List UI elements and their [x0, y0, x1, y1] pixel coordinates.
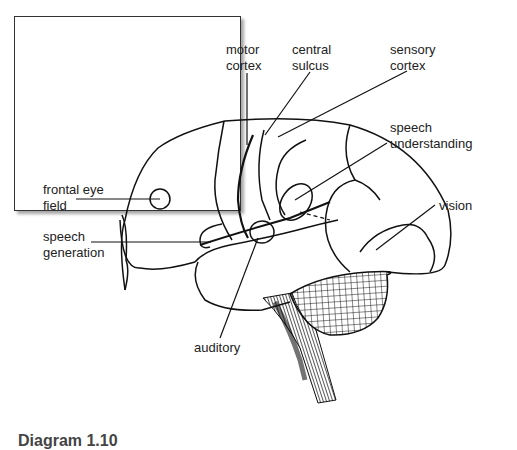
sensory-cortex-area [259, 130, 306, 220]
label-motor-cortex: motor cortex [226, 42, 261, 74]
auditory-area [250, 221, 274, 243]
label-speech-generation: speech generation [43, 229, 104, 261]
diagram-caption: Diagram 1.10 [18, 432, 118, 450]
label-frontal-eye-field: frontal eye field [43, 182, 104, 214]
label-sensory-cortex: sensory cortex [390, 42, 436, 74]
label-central-sulcus: central sulcus [292, 42, 331, 74]
label-speech-understanding: speech understanding [390, 120, 472, 152]
label-vision: vision [439, 198, 472, 214]
label-auditory: auditory [194, 340, 240, 356]
speech-understanding-area [273, 178, 319, 227]
